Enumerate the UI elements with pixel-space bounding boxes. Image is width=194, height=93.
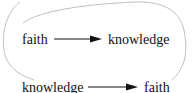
row-1-from-label: faith bbox=[22, 33, 48, 47]
row-2-to-label: faith bbox=[144, 81, 170, 93]
row-1-to-label: knowledge bbox=[108, 33, 169, 47]
arrow-row-2 bbox=[88, 84, 138, 91]
row-2-from-label: knowledge bbox=[22, 81, 83, 93]
diagram: faith knowledge knowledge faith bbox=[0, 0, 194, 93]
arrow-row-1 bbox=[54, 36, 102, 43]
